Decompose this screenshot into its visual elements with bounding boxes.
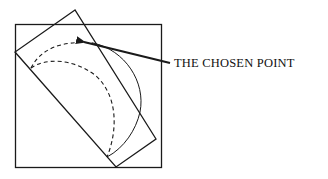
outer-square bbox=[16, 25, 162, 168]
solid-arc bbox=[93, 43, 141, 157]
chosen-point-marker bbox=[76, 39, 79, 42]
inner-dashed-arc bbox=[31, 61, 114, 157]
geometry-diagram bbox=[0, 0, 328, 179]
chosen-point-label: THE CHOSEN POINT bbox=[174, 56, 295, 71]
rotated-rectangle bbox=[15, 10, 156, 167]
outer-dashed-arc bbox=[31, 42, 93, 68]
arrow bbox=[84, 42, 170, 63]
